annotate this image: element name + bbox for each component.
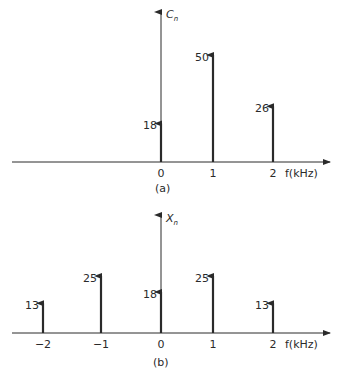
tick-label: 1 xyxy=(210,167,217,180)
value-label: 25 xyxy=(195,272,209,285)
panel-label: (a) xyxy=(155,182,170,195)
tick-label: 2 xyxy=(270,338,277,351)
panel-b: Xn 13−225−1180251132 f(kHz) (b) xyxy=(12,212,330,369)
y-axis-label: Cn xyxy=(166,8,178,23)
value-label: 18 xyxy=(143,288,157,301)
tick-label: 0 xyxy=(158,167,165,180)
tick-label: 2 xyxy=(270,167,277,180)
spectrum-figure: Cn 180501262 f(kHz) (a) Xn 13−225−118025… xyxy=(0,0,338,380)
value-label: 26 xyxy=(255,102,269,115)
x-axis-label: f(kHz) xyxy=(285,167,318,180)
x-axis-label: f(kHz) xyxy=(285,338,318,351)
tick-label: −1 xyxy=(93,338,109,351)
tick-label: 1 xyxy=(210,338,217,351)
value-label: 13 xyxy=(25,299,39,312)
panel-label: (b) xyxy=(153,356,169,369)
tick-label: 0 xyxy=(158,338,165,351)
y-axis-label: Xn xyxy=(165,212,178,227)
value-label: 25 xyxy=(83,272,97,285)
tick-label: −2 xyxy=(35,338,51,351)
panel-a: Cn 180501262 f(kHz) (a) xyxy=(12,8,330,195)
value-label: 50 xyxy=(195,51,209,64)
value-label: 18 xyxy=(143,119,157,132)
value-label: 13 xyxy=(255,299,269,312)
